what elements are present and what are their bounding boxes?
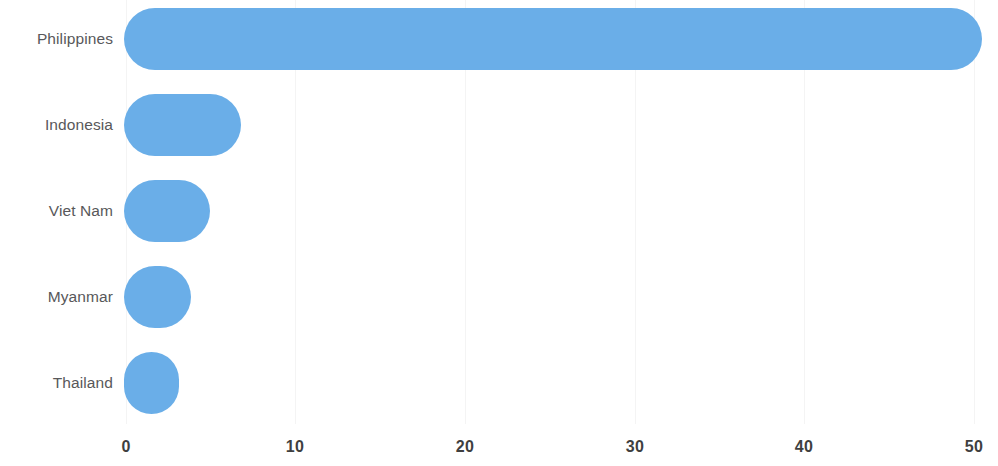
category-label-philippines: Philippines [0,30,113,48]
bar-indonesia[interactable] [124,94,241,156]
plot-area [126,0,980,424]
bar-viet-nam[interactable] [124,180,210,242]
x-tick-40: 40 [795,438,813,456]
x-tick-0: 0 [121,438,130,456]
x-tick-30: 30 [626,438,644,456]
category-label-indonesia: Indonesia [0,116,113,134]
gridline-50 [974,0,975,424]
x-tick-10: 10 [286,438,304,456]
category-label-myanmar: Myanmar [0,288,113,306]
bar-thailand[interactable] [124,352,179,414]
category-label-viet-nam: Viet Nam [0,202,113,220]
category-axis-labels: Philippines Indonesia Viet Nam Myanmar T… [0,0,113,424]
bar-chart: Philippines Indonesia Viet Nam Myanmar T… [0,0,998,466]
x-tick-20: 20 [456,438,474,456]
x-axis: 0 10 20 30 40 50 [0,424,998,466]
bar-philippines[interactable] [124,8,982,70]
x-tick-50: 50 [965,438,983,456]
category-label-thailand: Thailand [0,374,113,392]
bar-myanmar[interactable] [124,266,191,328]
